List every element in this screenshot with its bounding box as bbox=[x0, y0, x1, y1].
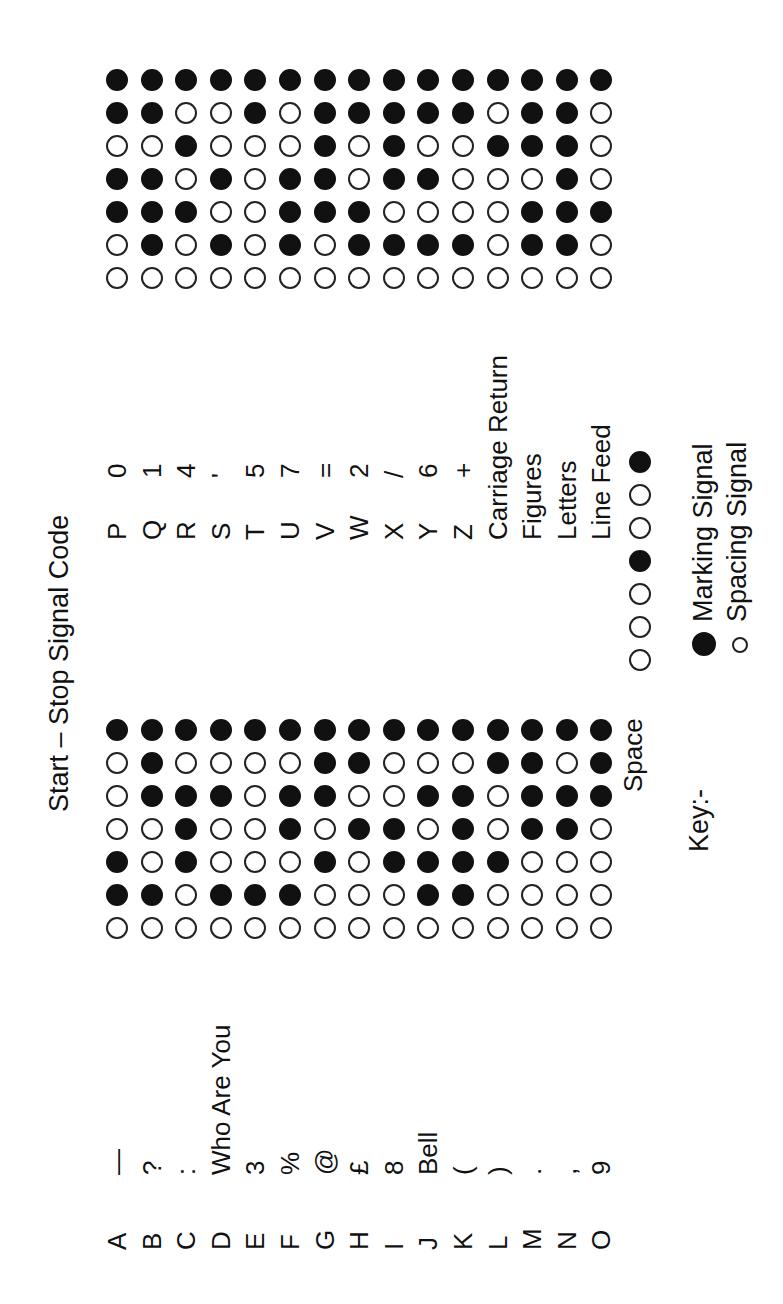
spacing-signal-dot bbox=[210, 851, 232, 873]
character-label: E bbox=[242, 1233, 268, 1250]
spacing-signal-dot bbox=[244, 785, 266, 807]
marking-signal-dot bbox=[487, 719, 509, 741]
marking-signal-dot bbox=[314, 135, 336, 157]
figure-label: ( bbox=[450, 1166, 476, 1175]
spacing-signal-dot bbox=[590, 102, 612, 124]
spacing-signal-dot bbox=[383, 917, 405, 939]
figure-label: = bbox=[312, 463, 338, 478]
marking-signal-dot bbox=[521, 102, 543, 124]
spacing-signal-dot bbox=[175, 234, 197, 256]
spacing-signal-dot bbox=[279, 851, 301, 873]
character-label: T bbox=[242, 524, 268, 540]
spacing-signal-dot bbox=[590, 884, 612, 906]
marking-signal-dot bbox=[487, 69, 509, 91]
marking-signal-dot bbox=[141, 884, 163, 906]
marking-signal-dot bbox=[556, 719, 578, 741]
marking-signal-dot bbox=[417, 102, 439, 124]
marking-signal-dot bbox=[314, 168, 336, 190]
figure-label: / bbox=[381, 471, 407, 478]
marking-signal-dot bbox=[106, 201, 128, 223]
marking-signal-dot bbox=[279, 234, 301, 256]
character-label: Y bbox=[415, 523, 441, 540]
marking-signal-dot bbox=[383, 818, 405, 840]
character-label: K bbox=[450, 1233, 476, 1250]
spacing-signal-dot bbox=[244, 917, 266, 939]
character-label: R bbox=[173, 521, 199, 540]
figure-label: @ bbox=[312, 1149, 338, 1175]
spacing-signal-dot bbox=[590, 267, 612, 289]
spacing-signal-dot bbox=[556, 267, 578, 289]
spacing-signal-dot bbox=[210, 135, 232, 157]
marking-signal-dot bbox=[244, 69, 266, 91]
spacing-signal-dot bbox=[590, 917, 612, 939]
marking-signal-dot bbox=[106, 168, 128, 190]
marking-signal-dot bbox=[279, 69, 301, 91]
spacing-signal-dot bbox=[487, 168, 509, 190]
spacing-signal-dot bbox=[556, 917, 578, 939]
character-label: G bbox=[312, 1230, 338, 1250]
figure-label: 1 bbox=[139, 464, 165, 478]
marking-signal-dot bbox=[348, 69, 370, 91]
marking-signal-dot bbox=[210, 719, 232, 741]
spacing-signal-dot bbox=[106, 267, 128, 289]
marking-signal-dot bbox=[629, 451, 651, 473]
spacing-signal-dot bbox=[487, 818, 509, 840]
character-label: S bbox=[208, 523, 234, 540]
marking-signal-dot bbox=[417, 168, 439, 190]
spacing-signal-dot bbox=[629, 517, 651, 539]
spacing-signal-dot bbox=[383, 267, 405, 289]
marking-signal-dot bbox=[521, 719, 543, 741]
figure-label: + bbox=[450, 463, 476, 478]
figure-label: ? bbox=[139, 1161, 165, 1175]
figure-label: ) bbox=[485, 1166, 511, 1175]
spacing-signal-dot bbox=[590, 818, 612, 840]
marking-signal-dot bbox=[417, 69, 439, 91]
spacing-signal-dot bbox=[244, 818, 266, 840]
spacing-signal-dot bbox=[279, 752, 301, 774]
marking-signal-dot bbox=[452, 818, 474, 840]
spacing-signal-dot bbox=[175, 752, 197, 774]
marking-signal-dot bbox=[556, 234, 578, 256]
figure-label: . bbox=[519, 1168, 545, 1175]
spacing-signal-dot bbox=[417, 818, 439, 840]
spacing-signal-dot bbox=[244, 135, 266, 157]
code-grid-p-to-line-feed: P0Q1R4S'T5U7V=W2X/Y6Z+Carriage ReturnFig… bbox=[0, 0, 783, 1304]
character-label: F bbox=[277, 1234, 303, 1250]
marking-signal-dot bbox=[141, 201, 163, 223]
marking-signal-dot bbox=[521, 69, 543, 91]
marking-signal-dot bbox=[383, 135, 405, 157]
marking-signal-dot bbox=[141, 168, 163, 190]
character-label: L bbox=[485, 1236, 511, 1250]
spacing-signal-dot bbox=[314, 234, 336, 256]
chart-title: Start – Stop Signal Code bbox=[44, 515, 75, 812]
marking-signal-dot bbox=[314, 851, 336, 873]
spacing-signal-dot bbox=[629, 583, 651, 605]
marking-signal-dot bbox=[141, 752, 163, 774]
spacing-signal-dot bbox=[141, 851, 163, 873]
character-label: U bbox=[277, 521, 303, 540]
marking-signal-dot bbox=[279, 818, 301, 840]
marking-signal-dot bbox=[106, 851, 128, 873]
figure-label: ' bbox=[208, 473, 234, 478]
spacing-signal-dot bbox=[279, 917, 301, 939]
spacing-signal-dot bbox=[106, 917, 128, 939]
marking-signal-dot bbox=[106, 719, 128, 741]
spacing-signal-label: Spacing Signal bbox=[724, 442, 751, 622]
spacing-signal-dot bbox=[452, 752, 474, 774]
marking-signal-dot bbox=[417, 234, 439, 256]
figure-label: 2 bbox=[346, 464, 372, 478]
character-label: Q bbox=[139, 520, 165, 540]
marking-signal-dot bbox=[452, 884, 474, 906]
character-label: Line Feed bbox=[588, 424, 614, 540]
marking-signal-dot bbox=[452, 102, 474, 124]
marking-signal-dot bbox=[175, 818, 197, 840]
marking-signal-dot bbox=[590, 69, 612, 91]
spacing-signal-dot bbox=[106, 752, 128, 774]
marking-signal-dot bbox=[383, 69, 405, 91]
character-label: N bbox=[554, 1231, 580, 1250]
marking-signal-dot bbox=[521, 135, 543, 157]
spacing-signal-dot bbox=[487, 917, 509, 939]
marking-signal-dot bbox=[279, 201, 301, 223]
marking-signal-dot bbox=[279, 785, 301, 807]
spacing-signal-dot bbox=[244, 267, 266, 289]
